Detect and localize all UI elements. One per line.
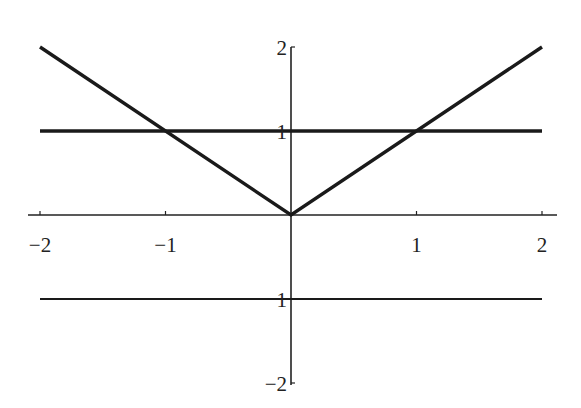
y-tick-label: 1 <box>277 288 288 312</box>
x-tick-label: −2 <box>29 233 51 257</box>
chart-svg: −2−112−2112 <box>0 0 581 408</box>
y-tick-label: −2 <box>265 372 287 396</box>
x-tick-label: 1 <box>411 233 422 257</box>
plot-area: −2−112−2112 <box>0 0 581 408</box>
x-tick-label: 2 <box>537 233 548 257</box>
x-tick-label: −1 <box>154 233 176 257</box>
y-tick-label: 1 <box>277 120 288 144</box>
y-tick-label: 2 <box>277 36 288 60</box>
